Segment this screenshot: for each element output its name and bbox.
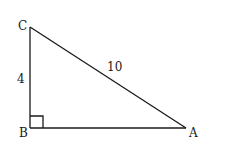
side-label-ca: 10 <box>107 60 122 74</box>
right-angle-marker <box>30 116 43 128</box>
side-ca <box>30 27 186 128</box>
side-label-bc: 4 <box>17 72 25 86</box>
triangle-diagram: C B A 4 10 <box>0 0 230 151</box>
vertex-label-a: A <box>188 126 198 140</box>
vertex-label-b: B <box>19 126 28 140</box>
triangle-edges <box>30 27 186 128</box>
vertex-label-c: C <box>18 19 27 33</box>
